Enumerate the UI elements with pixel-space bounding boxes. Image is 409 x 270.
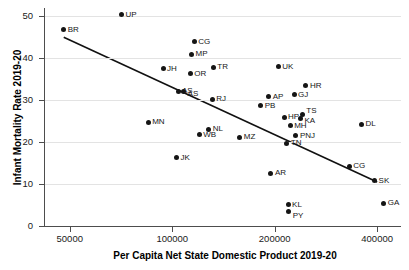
y-tick-mark (39, 100, 44, 101)
x-tick-mark (70, 227, 71, 232)
data-point (293, 133, 298, 138)
trend-line (44, 8, 401, 226)
y-tick-label: 50 (3, 11, 33, 21)
data-point-label: UK (282, 63, 293, 71)
data-point-label: MP (196, 50, 208, 58)
data-point (176, 89, 181, 94)
data-point-label: PY (293, 212, 304, 220)
data-point (174, 155, 179, 160)
x-tick-mark (172, 227, 173, 232)
y-tick-mark (39, 142, 44, 143)
data-point (237, 135, 242, 140)
data-point (197, 132, 202, 137)
y-tick-label: 30 (3, 95, 33, 105)
data-point (61, 27, 66, 32)
data-point (161, 66, 166, 71)
data-point (276, 64, 281, 69)
y-axis-line (44, 8, 45, 227)
data-point (381, 201, 386, 206)
data-point-label: OR (194, 70, 206, 78)
x-axis-line (44, 226, 401, 227)
x-tick-label: 400000 (342, 234, 409, 244)
x-axis-title: Per Capita Net State Domestic Product 20… (60, 250, 390, 261)
data-point (192, 39, 197, 44)
data-point-label: JH (167, 65, 177, 73)
scatter-chart: BRUPCGMPJHORTRUKASASRJHRGJAPPBMNNLWBMZHP… (0, 0, 409, 270)
data-point (268, 171, 273, 176)
x-tick-label: 50000 (35, 234, 105, 244)
plot-area: BRUPCGMPJHORTRUKASASRJHRGJAPPBMNNLWBMZHP… (44, 8, 401, 226)
data-point-label: BR (68, 26, 79, 34)
data-point-label: UP (126, 11, 137, 19)
y-tick-label: 20 (3, 137, 33, 147)
data-point (303, 83, 308, 88)
data-point (372, 178, 377, 183)
data-point (347, 164, 352, 169)
data-point-label: TS (306, 107, 316, 115)
data-point-label: TR (217, 63, 228, 71)
data-point-label: GA (388, 199, 400, 207)
gridline (44, 142, 401, 143)
data-point-label: SK (379, 177, 390, 185)
y-tick-mark (39, 184, 44, 185)
x-tick-mark (377, 227, 378, 232)
x-tick-label: 200000 (240, 234, 310, 244)
data-point (288, 123, 293, 128)
data-point (210, 97, 215, 102)
gridline (44, 58, 401, 59)
y-tick-label: 10 (3, 179, 33, 189)
data-point-label: WB (203, 131, 216, 139)
data-point-label: DL (366, 120, 376, 128)
data-point-label: CG (198, 38, 210, 46)
data-point (211, 65, 216, 70)
data-point-label: CG (353, 162, 365, 170)
data-point (258, 103, 263, 108)
y-tick-label: 40 (3, 53, 33, 63)
data-point (146, 120, 151, 125)
data-point (266, 94, 271, 99)
y-tick-mark (39, 226, 44, 227)
data-point-label: TN (291, 139, 302, 147)
data-point (282, 115, 287, 120)
data-point (286, 209, 291, 214)
x-tick-mark (275, 227, 276, 232)
data-point-label: PNJ (300, 132, 315, 140)
data-point-label: HR (310, 82, 322, 90)
data-point-label: RJ (216, 95, 226, 103)
data-point-label: KL (292, 201, 302, 209)
y-tick-mark (39, 58, 44, 59)
data-point (292, 92, 297, 97)
gridline (44, 184, 401, 185)
x-tick-label: 100000 (137, 234, 207, 244)
data-point-label: PB (265, 102, 276, 110)
data-point-label: GJ (298, 91, 308, 99)
y-tick-mark (39, 16, 44, 17)
data-point (286, 202, 291, 207)
data-point (284, 141, 289, 146)
y-tick-label: 0 (3, 221, 33, 231)
data-point-label: AR (275, 169, 286, 177)
data-point (189, 52, 194, 57)
data-point-label: JK (181, 154, 190, 162)
data-point-label: MZ (244, 133, 256, 141)
data-point-label: AP (273, 93, 284, 101)
data-point (359, 122, 364, 127)
data-point-label: AS (188, 90, 199, 98)
data-point (188, 71, 193, 76)
gridline (44, 16, 401, 17)
y-axis-title: Infant Mortality Rate 2019-20 (12, 3, 23, 233)
data-point-label: MN (152, 118, 164, 126)
data-point-label: MH (294, 122, 306, 130)
